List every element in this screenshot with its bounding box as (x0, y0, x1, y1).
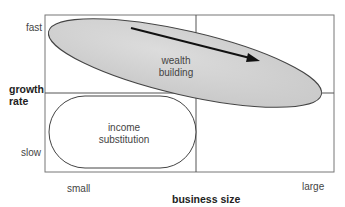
y-axis-title-line1: growth (9, 83, 44, 95)
income-substitution-label: income substitution (92, 122, 156, 146)
quadrant-diagram (0, 0, 345, 207)
x-axis-title: business size (172, 193, 240, 205)
x-axis-high-label: large (302, 181, 324, 192)
wealth-building-label: wealth building (151, 55, 201, 79)
y-axis-title-line2: rate (9, 95, 28, 107)
wealth-building-line1: wealth (151, 55, 201, 67)
wealth-building-line2: building (151, 67, 201, 79)
income-substitution-line1: income (92, 122, 156, 134)
x-axis-low-label: small (67, 183, 90, 194)
y-axis-low-label: slow (21, 147, 41, 158)
y-axis-high-label: fast (26, 22, 42, 33)
income-substitution-line2: substitution (92, 134, 156, 146)
